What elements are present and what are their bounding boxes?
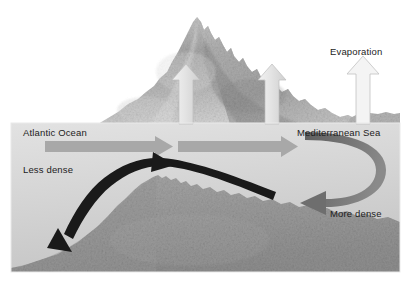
coastal-shelf xyxy=(347,112,400,124)
label-more-dense: More dense xyxy=(330,208,382,219)
label-mediterranean-sea: Mediterranean Sea xyxy=(297,127,380,138)
diagram-canvas xyxy=(0,0,413,285)
mediterranean-circulation-diagram: Evaporation Atlantic Ocean Mediterranean… xyxy=(0,0,413,285)
label-less-dense: Less dense xyxy=(23,164,73,175)
label-atlantic-ocean: Atlantic Ocean xyxy=(23,127,87,138)
label-evaporation: Evaporation xyxy=(330,46,382,57)
